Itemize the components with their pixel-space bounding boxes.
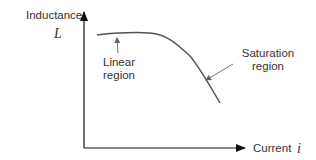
linear-region-arrow	[117, 38, 118, 53]
linear-region-label-line2: region	[103, 69, 135, 81]
saturation-region-arrow	[206, 64, 233, 80]
linear-region-label-line1: Linear	[103, 56, 135, 68]
y-axis-label: Inductance	[26, 9, 82, 21]
saturation-region-label-line1: Saturation	[242, 47, 294, 59]
x-axis-symbol: i	[297, 141, 301, 156]
y-axis-symbol: L	[53, 26, 62, 41]
x-axis-label: Current	[253, 142, 292, 154]
saturation-region-label-line2: region	[252, 60, 284, 72]
inductance-diagram: Inductance L Current i Linear region Sat…	[0, 0, 316, 160]
